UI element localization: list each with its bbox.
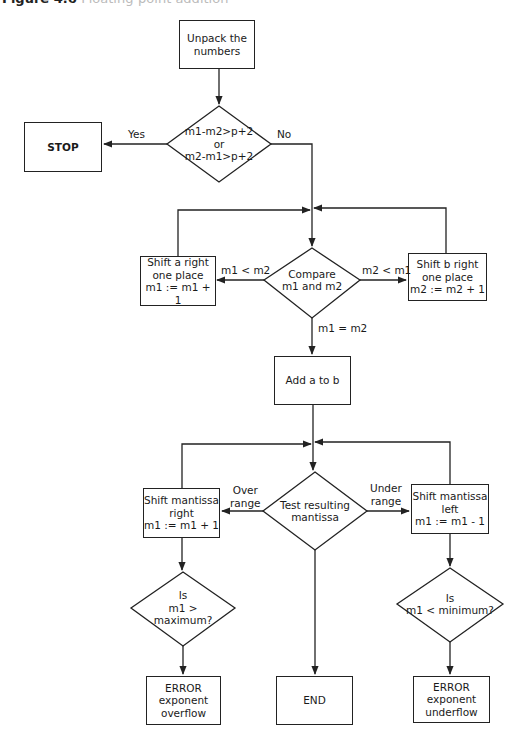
end-box: END <box>276 676 353 725</box>
edge-label-m1-lt-m2: m1 < m2 <box>221 264 270 277</box>
unpack-box: Unpack the numbers <box>179 20 255 69</box>
shift-b-box: Shift b right one place m2 := m2 + 1 <box>408 253 487 301</box>
edge-loop-mant-left <box>315 442 450 484</box>
error-overflow-box: ERROR exponent overflow <box>146 676 221 725</box>
edge-label-yes: Yes <box>128 128 145 141</box>
test-mantissa-label: Test resulting mantissa <box>270 495 360 527</box>
edge-loop-mant-right <box>182 444 311 488</box>
is-min-label: Is m1 < minimum? <box>404 588 496 620</box>
add-box: Add a to b <box>274 356 351 405</box>
edge-label-m1-eq-m2: m1 = m2 <box>318 322 367 335</box>
edge-loop-shift-b <box>314 208 446 253</box>
edge-label-m2-lt-m1: m2 < m1 <box>362 264 411 277</box>
range-test-label: m1-m2>p+2 or m2-m1>p+2 <box>175 120 263 168</box>
edge-label-under-range: Under range <box>370 482 402 507</box>
shift-a-box: Shift a right one place m1 := m1 + 1 <box>140 256 216 306</box>
error-underflow-box: ERROR exponent underflow <box>413 676 490 723</box>
is-max-label: Is m1 > maximum? <box>138 592 228 624</box>
edge-loop-shift-a <box>178 210 310 256</box>
shift-mantissa-left-box: Shift mantissa left m1 := m1 - 1 <box>411 484 489 534</box>
shift-mantissa-right-box: Shift mantissa right m1 := m1 + 1 <box>143 488 220 538</box>
edge-no <box>271 144 312 210</box>
stop-box: STOP <box>24 122 102 172</box>
compare-label: Compare m1 and m2 <box>272 264 352 296</box>
flowchart-connectors <box>0 0 524 741</box>
edge-label-over-range: Over range <box>230 484 261 509</box>
edge-label-no: No <box>277 128 291 141</box>
